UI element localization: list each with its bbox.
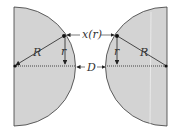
left-r-label: r <box>61 45 67 58</box>
right-R-label: R <box>139 46 148 59</box>
left-surface-point <box>62 34 66 38</box>
right-surface-point <box>115 34 119 38</box>
separation-label: D <box>86 61 96 74</box>
diagram-canvas: R R r r x(r) D <box>0 0 178 137</box>
right-r-label: r <box>114 45 120 58</box>
gap-function-label: x(r) <box>82 28 102 41</box>
left-R-label: R <box>32 46 41 59</box>
